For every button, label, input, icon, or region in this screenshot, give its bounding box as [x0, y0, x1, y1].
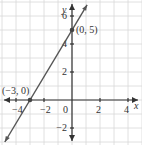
y-tick-label: −2 — [56, 122, 67, 133]
x-tick-label: 4 — [124, 104, 129, 115]
series — [5, 5, 87, 142]
y-tick-label: 2 — [62, 66, 67, 77]
y-axis-arrow-up — [69, 4, 75, 10]
y-tick-label: 6 — [62, 10, 67, 21]
x-tick-label: −4 — [12, 104, 23, 115]
data-point — [28, 98, 33, 103]
series-arrow-down — [5, 136, 10, 142]
line-graph: xy −4−2024−2246 (−3, 0)(0, 5) — [0, 0, 142, 145]
point-label: (0, 5) — [76, 24, 98, 36]
data-point — [70, 28, 75, 33]
y-axis-arrow-down — [69, 135, 75, 141]
x-axis-arrow-left — [4, 97, 10, 103]
x-axis-label: x — [133, 100, 139, 111]
x-tick-label: −2 — [40, 104, 51, 115]
x-tick-label: 0 — [63, 104, 68, 115]
x-tick-label: 2 — [96, 104, 101, 115]
point-label: (−3, 0) — [2, 85, 29, 97]
series-line — [5, 5, 87, 142]
